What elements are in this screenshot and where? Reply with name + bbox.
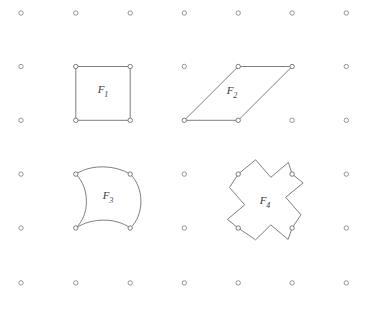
- grid-dot: [344, 64, 348, 68]
- grid-dot: [19, 281, 23, 285]
- grid-dot: [182, 11, 186, 15]
- grid-dot: [344, 118, 348, 122]
- grid-dot: [74, 11, 78, 15]
- grid-dot: [344, 226, 348, 230]
- vertex-dot-f3-2: [128, 226, 132, 230]
- grid-dot: [182, 64, 186, 68]
- grid-dot: [19, 172, 23, 176]
- vertex-dot-f2-0: [236, 64, 240, 68]
- grid-dot: [344, 281, 348, 285]
- vertex-dot-f2-3: [182, 118, 186, 122]
- grid-dot: [19, 11, 23, 15]
- vertex-dot-f4-1: [290, 172, 294, 176]
- grid-dot: [19, 226, 23, 230]
- grid-dot: [74, 281, 78, 285]
- shapes-layer: [76, 67, 303, 240]
- vertex-dot-f1-3: [74, 118, 78, 122]
- vertex-dot-f3-3: [74, 226, 78, 230]
- grid-dot: [344, 11, 348, 15]
- vertex-dot-f3-1: [128, 172, 132, 176]
- shape-label-f4: F4: [259, 194, 271, 211]
- grid-dot: [182, 226, 186, 230]
- vertex-dot-f2-1: [290, 64, 294, 68]
- grid-dots-layer: [19, 11, 349, 285]
- grid-dot: [290, 11, 294, 15]
- grid-dot: [290, 118, 294, 122]
- grid-dot: [290, 281, 294, 285]
- labels-layer: F1F2F3F4: [97, 83, 271, 211]
- figure-canvas: F1F2F3F4: [0, 0, 367, 313]
- grid-dot: [236, 11, 240, 15]
- grid-dot: [236, 281, 240, 285]
- shape-label-f3: F3: [102, 189, 114, 206]
- grid-dot: [128, 281, 132, 285]
- vertex-dot-f4-3: [236, 226, 240, 230]
- vertex-dot-f2-2: [236, 118, 240, 122]
- grid-dot: [182, 281, 186, 285]
- vertex-dot-f1-1: [128, 64, 132, 68]
- grid-dot: [182, 172, 186, 176]
- vertex-dot-f4-2: [290, 226, 294, 230]
- grid-dot: [19, 118, 23, 122]
- grid-dot: [128, 11, 132, 15]
- vertex-dot-f1-2: [128, 118, 132, 122]
- grid-dot: [19, 64, 23, 68]
- vertex-dot-f3-0: [74, 172, 78, 176]
- shape-f2: [184, 67, 292, 121]
- shape-label-f1: F1: [97, 83, 109, 100]
- figure-svg: F1F2F3F4: [0, 0, 367, 313]
- grid-dot: [344, 172, 348, 176]
- shape-label-f2: F2: [226, 84, 238, 101]
- vertex-dot-f4-0: [236, 172, 240, 176]
- vertex-dot-f1-0: [74, 64, 78, 68]
